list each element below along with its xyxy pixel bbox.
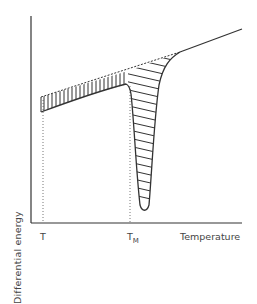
baseline-extrapolation [41,52,180,97]
energy-curve [41,52,180,210]
tm-tick-subscript: M [133,237,139,245]
baseline-solid [180,29,242,52]
t-tick-label: T [40,231,46,242]
y-axis-label: Differential energy [11,214,25,304]
x-axis-label: Temperature [180,231,240,242]
left-hatched-region [44,70,124,120]
tm-tick-label: TM [127,231,139,245]
